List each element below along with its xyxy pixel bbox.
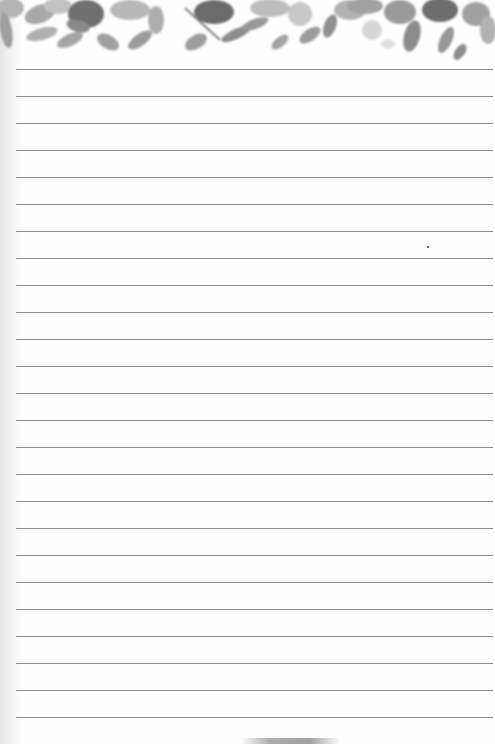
ruled-line (16, 393, 493, 394)
ruled-line (16, 555, 493, 556)
ruled-line (16, 231, 493, 232)
ruled-line (16, 150, 493, 151)
ruled-line (16, 582, 493, 583)
ruled-line (16, 690, 493, 691)
ruled-line (16, 366, 493, 367)
ruled-line (16, 609, 493, 610)
ruled-line (16, 258, 493, 259)
ruled-lines (0, 0, 495, 744)
ruled-line (16, 663, 493, 664)
ruled-line (16, 474, 493, 475)
ruled-line (16, 717, 493, 718)
ruled-line (16, 312, 493, 313)
ruled-line (16, 96, 493, 97)
ruled-line (16, 636, 493, 637)
paper-speck (427, 246, 429, 248)
ruled-line (16, 447, 493, 448)
ruled-line (16, 177, 493, 178)
scan-smudge (240, 738, 340, 744)
ruled-line (16, 204, 493, 205)
ruled-line (16, 501, 493, 502)
notepaper-page (0, 0, 495, 744)
ruled-line (16, 285, 493, 286)
ruled-line (16, 69, 493, 70)
ruled-line (16, 339, 493, 340)
ruled-line (16, 420, 493, 421)
ruled-line (16, 123, 493, 124)
ruled-line (16, 528, 493, 529)
